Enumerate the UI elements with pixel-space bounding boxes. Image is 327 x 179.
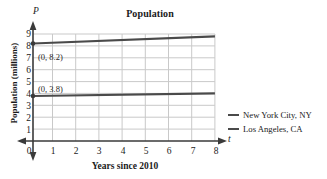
- data-point-la-intercept: [31, 94, 36, 99]
- legend-swatch-icon-la: [228, 128, 239, 130]
- grid-horizontal: [33, 34, 215, 129]
- annotation-la-intercept: (0, 3.8): [38, 84, 63, 94]
- annotation-nyc-intercept: (0, 8.2): [38, 52, 63, 62]
- legend-item-los-angeles[interactable]: Los Angeles, CA: [228, 122, 327, 136]
- chart-legend: New York City, NY Los Angeles, CA: [228, 108, 327, 136]
- legend-label-nyc: New York City, NY: [243, 110, 312, 120]
- legend-label-la: Los Angeles, CA: [243, 124, 303, 134]
- data-point-nyc-intercept: [31, 41, 36, 46]
- series-line-new-york-city: [31, 36, 215, 45]
- grid-vertical: [53, 34, 215, 141]
- legend-item-new-york-city[interactable]: New York City, NY: [228, 108, 327, 122]
- legend-swatch-icon-nyc: [228, 114, 239, 116]
- population-chart-figure: Population P t Population (millions) Yea…: [0, 0, 327, 179]
- series-line-los-angeles: [31, 93, 215, 98]
